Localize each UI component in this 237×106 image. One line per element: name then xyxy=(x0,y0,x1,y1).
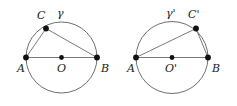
right-panel xyxy=(133,22,211,94)
label-point-c-prime: C' xyxy=(188,9,199,20)
left-panel xyxy=(23,22,100,93)
point-o-prime xyxy=(170,55,175,60)
label-point-c: C xyxy=(37,10,45,21)
point-o xyxy=(59,55,64,60)
label-point-a: A xyxy=(17,63,25,74)
segment-c-b xyxy=(46,29,97,58)
point-a-prime-panel xyxy=(133,55,139,61)
point-c-prime xyxy=(193,26,199,32)
point-a xyxy=(23,55,29,61)
label-circle-gamma: γ xyxy=(57,8,64,19)
label-point-o-prime: O' xyxy=(165,63,177,74)
geometry-figure: C γ A O B γ' C' A O' B xyxy=(0,0,237,106)
point-c xyxy=(43,26,49,32)
label-point-o: O xyxy=(57,63,66,74)
label-point-b: B xyxy=(101,63,109,74)
geometry-canvas xyxy=(0,0,237,106)
segment-a-cprime xyxy=(136,29,196,58)
label-circle-gamma-prime: γ' xyxy=(166,8,176,19)
label-point-a-prime-panel: A xyxy=(127,63,135,74)
segment-cprime-b xyxy=(196,29,208,58)
point-b xyxy=(94,55,100,61)
point-b-prime-panel xyxy=(205,55,211,61)
label-point-b-prime-panel: B xyxy=(212,63,220,74)
